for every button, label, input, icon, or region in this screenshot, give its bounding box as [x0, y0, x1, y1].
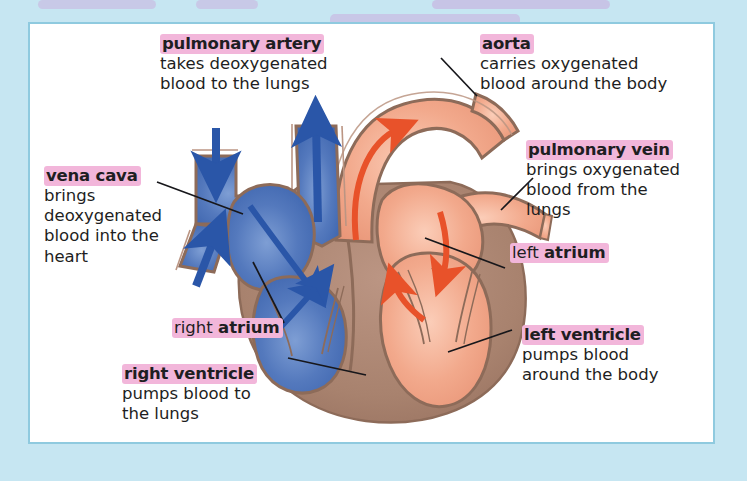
label-right-ventricle-line-1: pumps blood to	[122, 384, 257, 403]
label-vena-cava-line-2: deoxygenated	[44, 206, 162, 225]
label-pulmonary-vein-line-1: brings oxygenated	[526, 160, 680, 179]
label-vena-cava-term: vena cava	[44, 166, 141, 186]
label-pulmonary-artery-term: pulmonary artery	[160, 34, 324, 54]
label-pulmonary-vein[interactable]: pulmonary vein brings oxygenated blood f…	[526, 140, 680, 220]
label-left-ventricle[interactable]: left ventricle pumps blood around the bo…	[522, 325, 658, 384]
label-right-atrium-term: atrium	[218, 318, 280, 337]
label-right-atrium[interactable]: right atrium	[172, 318, 283, 337]
label-right-ventricle-term: right ventricle	[122, 364, 257, 384]
label-left-ventricle-line-1: pumps blood	[522, 345, 658, 364]
label-pulmonary-artery[interactable]: pulmonary artery takes deoxygenated bloo…	[160, 34, 328, 93]
label-pulmonary-vein-term: pulmonary vein	[526, 140, 673, 160]
label-right-atrium-prefix: right	[174, 318, 218, 337]
label-pulmonary-vein-line-2: blood from the	[526, 180, 680, 199]
label-aorta-line-1: carries oxygenated	[480, 54, 667, 73]
label-aorta-term: aorta	[480, 34, 534, 54]
top-highlight-remnant-right	[432, 0, 610, 9]
label-left-atrium-term: atrium	[544, 243, 606, 262]
diagram-stage: pulmonary artery takes deoxygenated bloo…	[0, 0, 747, 481]
label-pulmonary-artery-line-1: takes deoxygenated	[160, 54, 328, 73]
label-right-ventricle-line-2: the lungs	[122, 404, 257, 423]
top-highlight-remnant-left	[38, 0, 156, 9]
label-left-atrium[interactable]: left atrium	[510, 243, 609, 262]
label-left-ventricle-term: left ventricle	[522, 325, 644, 345]
label-left-ventricle-line-2: around the body	[522, 365, 658, 384]
label-vena-cava-line-3: blood into the	[44, 226, 162, 245]
label-aorta[interactable]: aorta carries oxygenated blood around th…	[480, 34, 667, 93]
label-vena-cava-line-1: brings	[44, 186, 162, 205]
label-pulmonary-vein-line-3: lungs	[526, 200, 680, 219]
label-right-ventricle[interactable]: right ventricle pumps blood to the lungs	[122, 364, 257, 423]
label-vena-cava-line-4: heart	[44, 247, 162, 266]
label-aorta-line-2: blood around the body	[480, 74, 667, 93]
label-left-atrium-prefix: left	[512, 243, 544, 262]
label-vena-cava[interactable]: vena cava brings deoxygenated blood into…	[44, 166, 162, 266]
top-highlight-remnant-mid	[196, 0, 258, 9]
label-pulmonary-artery-line-2: blood to the lungs	[160, 74, 328, 93]
